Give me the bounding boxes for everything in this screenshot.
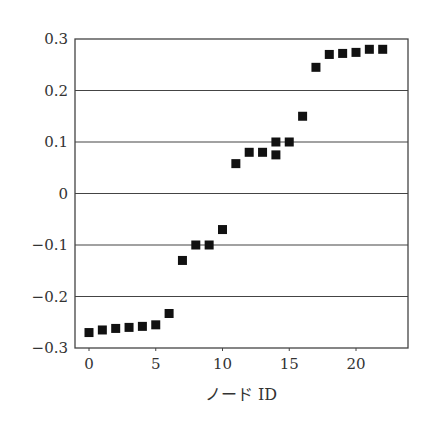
data-point-marker bbox=[298, 112, 307, 121]
data-point-marker bbox=[165, 309, 174, 318]
data-point-marker bbox=[338, 49, 347, 58]
data-point-marker bbox=[151, 320, 160, 329]
data-point-marker bbox=[245, 148, 254, 157]
x-tick-label: 0 bbox=[84, 355, 94, 373]
data-point-marker bbox=[271, 138, 280, 147]
data-point-marker bbox=[325, 50, 334, 59]
x-tick-label: 20 bbox=[346, 355, 365, 373]
data-point-marker bbox=[98, 325, 107, 334]
data-point-marker bbox=[231, 159, 240, 168]
data-point-marker bbox=[205, 241, 214, 250]
y-tick-label: −0.2 bbox=[32, 288, 68, 306]
data-point-marker bbox=[365, 45, 374, 54]
scatter-chart: −0.3−0.2−0.100.10.20.3 05101520 ノード ID bbox=[0, 0, 432, 423]
x-tick-label: 15 bbox=[280, 355, 299, 373]
grid-lines bbox=[75, 91, 408, 297]
data-points bbox=[85, 45, 388, 337]
y-tick-label: 0.2 bbox=[44, 82, 68, 100]
data-point-marker bbox=[191, 241, 200, 250]
data-point-marker bbox=[378, 45, 387, 54]
y-axis-ticks: −0.3−0.2−0.100.10.20.3 bbox=[32, 30, 68, 357]
y-tick-label: 0.1 bbox=[44, 133, 68, 151]
data-point-marker bbox=[138, 322, 147, 331]
data-point-marker bbox=[218, 225, 227, 234]
data-point-marker bbox=[125, 323, 134, 332]
y-tick-label: −0.1 bbox=[32, 236, 68, 254]
x-tick-label: 5 bbox=[151, 355, 161, 373]
x-axis-ticks: 05101520 bbox=[84, 348, 365, 373]
data-point-marker bbox=[178, 256, 187, 265]
data-point-marker bbox=[85, 328, 94, 337]
y-tick-label: 0.3 bbox=[44, 30, 68, 48]
data-point-marker bbox=[285, 138, 294, 147]
x-tick-label: 10 bbox=[213, 355, 232, 373]
data-point-marker bbox=[311, 63, 320, 72]
x-axis-title: ノード ID bbox=[205, 385, 277, 404]
y-tick-label: −0.3 bbox=[32, 339, 68, 357]
data-point-marker bbox=[111, 324, 120, 333]
data-point-marker bbox=[271, 150, 280, 159]
data-point-marker bbox=[352, 48, 361, 57]
y-tick-label: 0 bbox=[58, 185, 68, 203]
data-point-marker bbox=[258, 148, 267, 157]
